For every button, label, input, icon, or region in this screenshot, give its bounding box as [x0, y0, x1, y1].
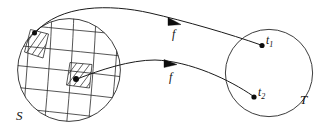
grid-line-u-6: [110, 22, 118, 126]
hatched-cell-1: [16, 24, 60, 78]
map-arrow-lower-head: [164, 60, 177, 68]
grid-line-u-2: [22, 11, 30, 128]
target-point-1-dot: [259, 43, 264, 48]
target-point-2-label: t2: [258, 86, 265, 101]
target-point-1-subscript: 1: [269, 40, 273, 49]
grid-line-v-1: [6, 23, 128, 35]
source-set-group: S: [3, 9, 131, 131]
map-arrow-upper-path: [35, 8, 261, 45]
hatched-cell-1-fill: [16, 24, 60, 78]
map-arrow-lower-label: f: [169, 70, 174, 84]
mapping-diagram: S f f t1 t2 T: [0, 0, 328, 139]
target-set-label: T: [300, 92, 308, 107]
target-point-1-label: t1: [266, 34, 273, 49]
grid-line-v-3: [3, 64, 131, 78]
target-point-2-subscript: 2: [261, 92, 265, 101]
diagram-canvas: S f f t1 t2 T: [0, 0, 328, 139]
grid-line-u-1: [4, 25, 9, 126]
grid-line-v-2: [4, 44, 130, 57]
grid-line-u-5: [88, 13, 96, 129]
map-arrow-upper-label: f: [172, 27, 177, 41]
target-point-2-dot: [251, 94, 256, 99]
target-set-group: t1 t2 T: [225, 29, 312, 116]
source-set-label: S: [16, 108, 23, 123]
